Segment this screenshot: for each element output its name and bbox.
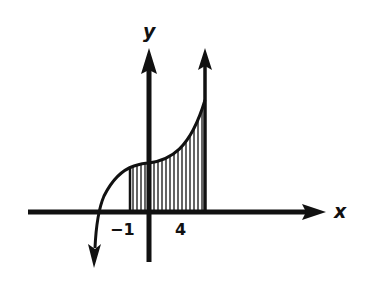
area-under-curve-diagram: y x −1 4 — [0, 0, 368, 282]
y-axis-label: y — [143, 20, 157, 42]
shaded-region — [133, 90, 202, 212]
x-axis — [28, 204, 326, 220]
tick-label-left: −1 — [110, 220, 135, 239]
tick-label-right: 4 — [175, 220, 186, 239]
right-bound-line — [198, 48, 212, 212]
x-axis-label: x — [333, 200, 347, 222]
y-axis — [141, 48, 157, 262]
